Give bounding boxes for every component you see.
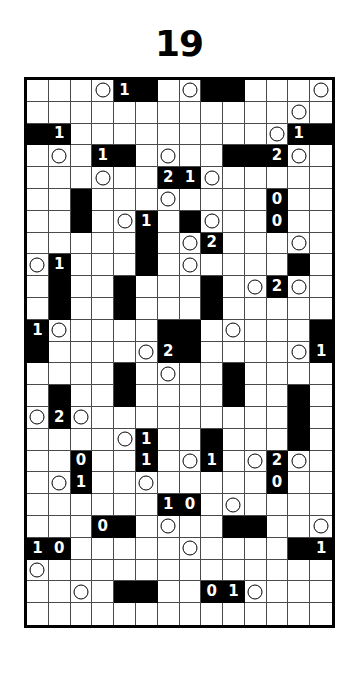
grid-cell[interactable] bbox=[92, 298, 114, 320]
grid-cell[interactable] bbox=[158, 80, 180, 102]
grid-cell[interactable] bbox=[245, 363, 267, 385]
grid-cell[interactable]: 1 bbox=[136, 429, 158, 451]
grid-cell[interactable] bbox=[288, 80, 310, 102]
grid-cell[interactable] bbox=[245, 320, 267, 342]
grid-cell[interactable] bbox=[201, 494, 223, 516]
grid-cell[interactable] bbox=[310, 516, 332, 538]
grid-cell[interactable] bbox=[180, 80, 202, 102]
grid-cell[interactable] bbox=[71, 102, 93, 124]
grid-cell[interactable] bbox=[223, 233, 245, 255]
grid-cell[interactable] bbox=[180, 516, 202, 538]
grid-cell[interactable] bbox=[245, 342, 267, 364]
grid-cell[interactable] bbox=[49, 145, 71, 167]
grid-cell[interactable] bbox=[158, 385, 180, 407]
grid-cell[interactable] bbox=[114, 124, 136, 146]
grid-cell[interactable] bbox=[180, 603, 202, 625]
grid-cell[interactable] bbox=[136, 363, 158, 385]
grid-cell[interactable] bbox=[114, 298, 136, 320]
grid-cell[interactable] bbox=[267, 538, 289, 560]
grid-cell[interactable] bbox=[223, 494, 245, 516]
grid-cell[interactable] bbox=[92, 451, 114, 473]
grid-cell[interactable] bbox=[201, 211, 223, 233]
grid-cell[interactable] bbox=[114, 102, 136, 124]
grid-cell[interactable] bbox=[114, 233, 136, 255]
grid-cell[interactable] bbox=[288, 516, 310, 538]
grid-cell[interactable] bbox=[310, 189, 332, 211]
grid-cell[interactable] bbox=[158, 560, 180, 582]
grid-cell[interactable] bbox=[245, 560, 267, 582]
grid-cell[interactable] bbox=[180, 538, 202, 560]
grid-cell[interactable] bbox=[27, 80, 49, 102]
grid-cell[interactable] bbox=[49, 342, 71, 364]
grid-cell[interactable]: 1 bbox=[201, 451, 223, 473]
grid-cell[interactable] bbox=[49, 494, 71, 516]
grid-cell[interactable] bbox=[49, 451, 71, 473]
grid-cell[interactable] bbox=[180, 385, 202, 407]
grid-cell[interactable] bbox=[136, 494, 158, 516]
grid-cell[interactable] bbox=[310, 429, 332, 451]
grid-cell[interactable] bbox=[267, 342, 289, 364]
grid-cell[interactable] bbox=[288, 603, 310, 625]
grid-cell[interactable] bbox=[27, 560, 49, 582]
grid-cell[interactable] bbox=[136, 254, 158, 276]
grid-cell[interactable] bbox=[180, 254, 202, 276]
grid-cell[interactable] bbox=[136, 233, 158, 255]
grid-cell[interactable] bbox=[49, 385, 71, 407]
grid-cell[interactable] bbox=[288, 560, 310, 582]
grid-cell[interactable] bbox=[49, 298, 71, 320]
grid-cell[interactable] bbox=[136, 407, 158, 429]
grid-cell[interactable] bbox=[71, 167, 93, 189]
grid-cell[interactable] bbox=[71, 254, 93, 276]
grid-cell[interactable] bbox=[245, 494, 267, 516]
grid-cell[interactable] bbox=[92, 342, 114, 364]
grid-cell[interactable] bbox=[180, 472, 202, 494]
grid-cell[interactable] bbox=[71, 538, 93, 560]
grid-cell[interactable] bbox=[201, 342, 223, 364]
grid-cell[interactable] bbox=[136, 385, 158, 407]
grid-cell[interactable] bbox=[223, 363, 245, 385]
grid-cell[interactable] bbox=[136, 603, 158, 625]
grid-cell[interactable] bbox=[158, 189, 180, 211]
grid-cell[interactable] bbox=[288, 233, 310, 255]
grid-cell[interactable] bbox=[71, 211, 93, 233]
grid-cell[interactable] bbox=[223, 560, 245, 582]
grid-cell[interactable] bbox=[92, 538, 114, 560]
grid-cell[interactable] bbox=[245, 102, 267, 124]
grid-cell[interactable] bbox=[114, 429, 136, 451]
grid-cell[interactable] bbox=[27, 342, 49, 364]
grid-cell[interactable] bbox=[180, 276, 202, 298]
grid-cell[interactable] bbox=[180, 320, 202, 342]
grid-cell[interactable] bbox=[310, 145, 332, 167]
grid-cell[interactable] bbox=[288, 494, 310, 516]
grid-cell[interactable] bbox=[158, 102, 180, 124]
grid-cell[interactable] bbox=[158, 233, 180, 255]
grid-cell[interactable] bbox=[245, 145, 267, 167]
grid-cell[interactable] bbox=[136, 80, 158, 102]
grid-cell[interactable] bbox=[288, 254, 310, 276]
grid-cell[interactable] bbox=[201, 538, 223, 560]
grid-cell[interactable] bbox=[92, 560, 114, 582]
grid-cell[interactable] bbox=[27, 363, 49, 385]
grid-cell[interactable] bbox=[49, 603, 71, 625]
grid-cell[interactable] bbox=[223, 145, 245, 167]
grid-cell[interactable] bbox=[201, 80, 223, 102]
grid-cell[interactable] bbox=[92, 320, 114, 342]
grid-cell[interactable] bbox=[136, 276, 158, 298]
grid-cell[interactable] bbox=[201, 254, 223, 276]
grid-cell[interactable] bbox=[288, 167, 310, 189]
grid-cell[interactable] bbox=[136, 167, 158, 189]
grid-cell[interactable] bbox=[201, 102, 223, 124]
grid-cell[interactable] bbox=[27, 494, 49, 516]
grid-cell[interactable] bbox=[310, 254, 332, 276]
grid-cell[interactable] bbox=[114, 254, 136, 276]
grid-cell[interactable] bbox=[92, 102, 114, 124]
grid-cell[interactable] bbox=[49, 276, 71, 298]
grid-cell[interactable] bbox=[158, 451, 180, 473]
grid-cell[interactable] bbox=[223, 298, 245, 320]
grid-cell[interactable] bbox=[114, 560, 136, 582]
grid-cell[interactable] bbox=[267, 80, 289, 102]
grid-cell[interactable] bbox=[310, 276, 332, 298]
grid-cell[interactable] bbox=[136, 472, 158, 494]
grid-cell[interactable]: 1 bbox=[288, 124, 310, 146]
grid-cell[interactable] bbox=[92, 407, 114, 429]
